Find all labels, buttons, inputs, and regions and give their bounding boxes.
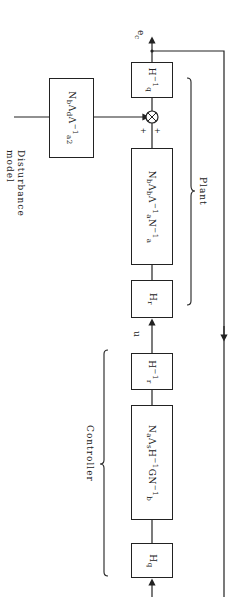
plant-brace <box>187 78 195 305</box>
disturbance-model-block: NbΛdΛ−1a2 <box>49 78 94 158</box>
plus-sign-left: + <box>140 126 147 135</box>
controller-transfer-function: NaΛsH−1GN−1b <box>145 424 160 500</box>
hr-inverse-label: H−1r <box>145 360 160 384</box>
plant-label: Plant <box>198 177 208 206</box>
hr-label: Hr <box>146 293 159 305</box>
disturbance-transfer-function: NbΛdΛ−1a2 <box>64 91 79 144</box>
disturbance-model-label: Disturbance model <box>4 150 26 220</box>
hq-inverse-block: H−1q <box>131 62 173 98</box>
plant-block: NbΛbΛ−1aN−1a <box>131 148 173 265</box>
output-label-ec: ec <box>133 30 146 39</box>
hq-label: Hq <box>146 554 159 567</box>
hq-inverse-label: H−1q <box>145 68 160 93</box>
controller-block: NaΛsH−1GN−1b <box>131 405 173 520</box>
hr-inverse-block: H−1r <box>131 353 173 390</box>
plant-transfer-function: NbΛbΛ−1aN−1a <box>145 170 160 243</box>
controller-brace <box>100 350 108 576</box>
controller-label: Controller <box>85 425 95 482</box>
control-signal-u-label: u <box>132 331 142 337</box>
plus-sign-right: + <box>154 126 161 135</box>
hq-block: Hq <box>131 543 173 578</box>
hr-block: Hr <box>131 280 173 318</box>
diagram-lines <box>0 0 231 597</box>
